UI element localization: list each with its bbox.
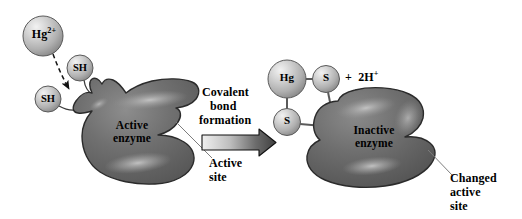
sulfur-lower-sphere bbox=[274, 109, 301, 136]
figure-canvas: Hg2+ SH SH Active enzyme Active site Cov… bbox=[0, 0, 522, 219]
mercury-atom-sphere bbox=[268, 60, 306, 98]
active-enzyme-group bbox=[23, 16, 212, 184]
enzyme-inhibition-illustration bbox=[0, 0, 522, 219]
inactive-enzyme-group bbox=[268, 60, 452, 187]
process-arrow-shape bbox=[202, 129, 276, 156]
sulfur-upper-sphere bbox=[313, 66, 340, 93]
thiol-upper-sphere bbox=[67, 55, 93, 81]
mercury-binding-arrow bbox=[53, 54, 69, 89]
mercury-ion-sphere bbox=[23, 16, 63, 56]
thiol-lower-sphere bbox=[35, 86, 61, 112]
